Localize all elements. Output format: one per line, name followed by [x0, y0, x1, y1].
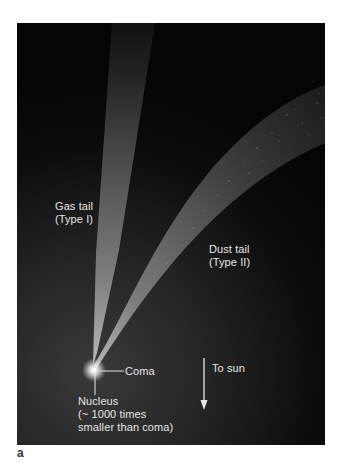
nucleus-dot — [92, 368, 96, 372]
coma-label: Coma — [125, 365, 155, 378]
nucleus-label-line1: Nucleus — [78, 395, 173, 408]
nucleus-label: Nucleus (~ 1000 times smaller than coma) — [78, 395, 173, 434]
nucleus-label-line2: (~ 1000 times — [78, 408, 173, 421]
to-sun-label: To sun — [212, 362, 245, 375]
figure-panel-letter: a — [17, 446, 24, 460]
gas-tail-label-line1: Gas tail — [55, 200, 93, 213]
gas-tail-label: Gas tail (Type I) — [55, 200, 93, 226]
nucleus-label-line3: smaller than coma) — [78, 421, 173, 434]
dust-tail-label-line1: Dust tail — [209, 243, 250, 256]
comet-diagram-panel: Gas tail (Type I) Dust tail (Type II) Co… — [17, 23, 325, 445]
gas-tail-label-line2: (Type I) — [55, 213, 93, 226]
comet-diagram-graphic — [17, 23, 325, 445]
dust-tail-label: Dust tail (Type II) — [209, 243, 250, 269]
dust-tail-label-line2: (Type II) — [209, 256, 250, 269]
